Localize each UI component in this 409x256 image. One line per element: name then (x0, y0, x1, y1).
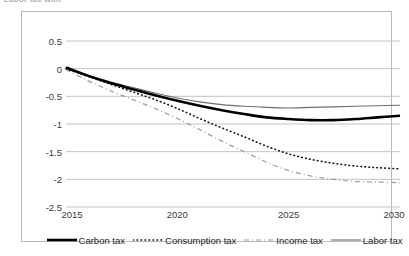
plot-svg (66, 41, 400, 207)
x-tick-label: 2030 (383, 209, 404, 220)
legend-label: Income tax (276, 235, 322, 246)
legend-item[interactable]: Income tax (244, 235, 330, 246)
legend-line-swatch (133, 235, 163, 245)
y-tick-label: 0.5 (26, 36, 62, 47)
legend-label: Labor tax (363, 235, 403, 246)
x-axis-tick-labels: 2015202020252030 (66, 209, 400, 225)
legend-line-swatch (47, 235, 77, 245)
legend-line-swatch (331, 235, 361, 245)
legend-item[interactable]: Labor tax (331, 235, 409, 246)
series-line (66, 69, 400, 108)
y-tick-label: -1.5 (26, 146, 62, 157)
y-axis-tick-labels: 0.50-0.5-1-1.5-2-2.5 (22, 41, 62, 207)
x-tick-label: 2015 (61, 209, 82, 220)
y-tick-label: -2 (26, 174, 62, 185)
chart-legend: Carbon taxConsumption taxIncome taxLabor… (43, 231, 409, 249)
legend-line-swatch (244, 235, 274, 245)
y-tick-label: -1 (26, 119, 62, 130)
legend-label: Carbon tax (79, 235, 125, 246)
x-tick-label: 2025 (278, 209, 299, 220)
legend-label: Consumption tax (165, 235, 236, 246)
legend-item[interactable]: Consumption tax (133, 235, 244, 246)
cut-off-caption: Labor tax with (4, 0, 264, 4)
x-tick-label: 2020 (167, 209, 188, 220)
plot-area (66, 41, 400, 207)
legend-item[interactable]: Carbon tax (47, 235, 133, 246)
y-tick-label: 0 (26, 63, 62, 74)
series-line (66, 68, 400, 121)
y-tick-label: -0.5 (26, 91, 62, 102)
chart-frame: 0.50-0.5-1-1.5-2-2.5 2015202020252030 Ca… (21, 11, 392, 242)
y-tick-label: -2.5 (26, 202, 62, 213)
